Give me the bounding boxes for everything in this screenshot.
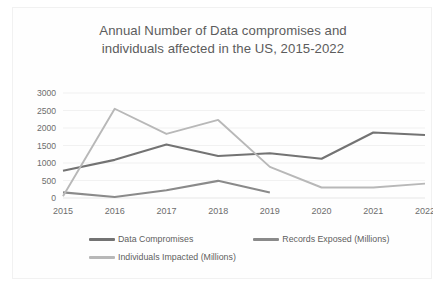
y-axis-tick-label: 1000	[37, 158, 56, 168]
y-axis-tick-label: 2000	[37, 123, 56, 133]
x-axis-tick-label: 2018	[208, 206, 228, 216]
x-axis-tick-label: 2019	[260, 206, 280, 216]
chart-legend: Data Compromises Records Exposed (Millio…	[13, 230, 433, 266]
legend-swatch-line-icon	[253, 238, 279, 241]
x-axis-tick-label: 2022	[415, 206, 433, 216]
legend-label: Individuals Impacted (Millions)	[118, 252, 236, 262]
y-axis-tick-label: 3000	[37, 88, 56, 98]
data-series-group	[63, 109, 425, 197]
legend-row: Data Compromises Records Exposed (Millio…	[13, 230, 433, 248]
x-axis-tick-label: 2016	[105, 206, 125, 216]
chart-card: Annual Number of Data compromises and in…	[12, 7, 432, 279]
x-axis-tick-labels: 20152016201720182019202020212022	[53, 206, 433, 216]
x-axis-tick-label: 2020	[312, 206, 332, 216]
y-axis-tick-label: 500	[42, 176, 57, 186]
series-line-1	[63, 133, 425, 171]
legend-row: Individuals Impacted (Millions)	[13, 248, 433, 266]
legend-item-records-exposed[interactable]: Records Exposed (Millions)	[253, 234, 389, 244]
y-axis-tick-label: 1500	[37, 141, 56, 151]
gridlines-group	[63, 93, 425, 198]
legend-item-data-compromises[interactable]: Data Compromises	[89, 234, 193, 244]
legend-item-individuals-impacted[interactable]: Individuals Impacted (Millions)	[89, 252, 236, 262]
legend-swatch-line-icon	[89, 256, 115, 259]
y-axis-tick-label: 0	[51, 193, 56, 203]
x-axis-tick-label: 2015	[53, 206, 73, 216]
y-axis-tick-label: 2500	[37, 106, 56, 116]
legend-label: Data Compromises	[118, 234, 193, 244]
series-line-3	[63, 109, 425, 197]
series-line-2	[63, 181, 270, 197]
legend-label: Records Exposed (Millions)	[282, 234, 389, 244]
legend-swatch-line-icon	[89, 238, 115, 241]
x-axis-tick-label: 2017	[156, 206, 176, 216]
y-axis-tick-labels: 050010001500200025003000	[37, 88, 56, 203]
x-axis-tick-label: 2021	[363, 206, 383, 216]
